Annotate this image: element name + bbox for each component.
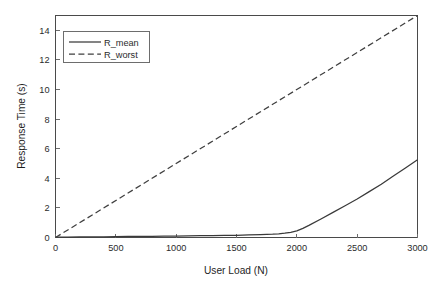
x-tick-label: 500 [108,243,123,253]
x-tick-label: 2500 [347,243,367,253]
y-tick-label: 8 [44,115,49,125]
x-tick-label: 3000 [407,243,427,253]
x-tick-label: 1500 [226,243,246,253]
x-tick-label: 2000 [287,243,307,253]
y-axis-title: Response Time (s) [16,83,27,169]
y-tick-label: 6 [44,144,49,154]
y-tick-label: 12 [39,55,49,65]
y-tick-label: 14 [39,26,49,36]
legend-label-r-worst: R_worst [104,50,138,60]
y-tick-label: 2 [44,203,49,213]
x-tick-label: 1000 [166,243,186,253]
x-axis-title: User Load (N) [204,265,268,276]
y-tick-label: 10 [39,85,49,95]
response-time-line-chart: 050010001500200025003000 02468101214 Use… [0,0,437,286]
y-tick-label: 4 [44,174,49,184]
chart-legend: R_mean R_worst [64,32,150,63]
chart-page: 050010001500200025003000 02468101214 Use… [0,0,437,286]
legend-label-r-mean: R_mean [104,38,139,48]
x-tick-label: 0 [53,243,58,253]
y-tick-label: 0 [44,233,49,243]
